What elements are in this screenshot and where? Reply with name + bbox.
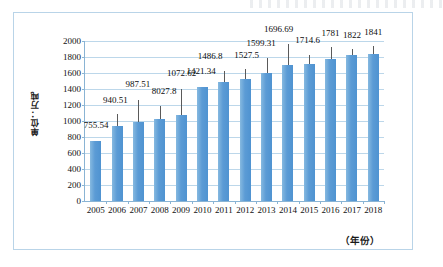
bar [176, 115, 187, 201]
y-tick-mark [82, 137, 85, 138]
bar-value-label: 1822 [343, 31, 361, 40]
bar-value-label: 1696.69 [264, 25, 293, 34]
bar [133, 122, 144, 201]
x-tick-mark [106, 201, 107, 204]
x-tick-label: 2017 [343, 205, 361, 215]
y-tick-mark [82, 73, 85, 74]
x-tick-mark [128, 201, 129, 204]
bar [197, 87, 208, 201]
x-tick-label: 2011 [215, 205, 233, 215]
x-tick-label: 2006 [108, 205, 126, 215]
x-tick-label: 2013 [258, 205, 276, 215]
plot-area: 2000180016001400120010008006004002000 20… [84, 41, 384, 202]
label-leader-line [160, 106, 161, 119]
y-tick-label: 1800 [63, 53, 81, 62]
y-tick-mark [82, 201, 85, 202]
bar-value-label: 8027.8 [152, 87, 177, 96]
y-tick-mark [82, 185, 85, 186]
y-tick-label: 400 [68, 165, 82, 174]
gridline [85, 137, 384, 138]
y-tick-label: 0 [77, 197, 82, 206]
bar-value-label: 755.54 [84, 121, 109, 130]
x-axis-title: （年份） [340, 233, 380, 247]
y-tick-label: 1400 [63, 85, 81, 94]
x-tick-mark [363, 201, 364, 204]
bar [346, 55, 357, 201]
gridline [85, 41, 384, 42]
y-tick-label: 200 [68, 181, 82, 190]
label-leader-line [267, 58, 268, 73]
x-tick-mark [320, 201, 321, 204]
y-tick-label: 1000 [63, 117, 81, 126]
label-leader-line [288, 44, 289, 65]
label-leader-line [331, 47, 332, 59]
bar-value-label: 1527.5 [234, 51, 259, 60]
x-tick-mark [235, 201, 236, 204]
x-tick-mark [170, 201, 171, 204]
x-tick-mark [149, 201, 150, 204]
y-tick-mark [82, 169, 85, 170]
y-tick-label: 600 [68, 149, 82, 158]
label-leader-line [245, 69, 246, 79]
bar-value-label: 1486.8 [198, 52, 223, 61]
scan-noise-artifact [250, 0, 443, 8]
y-tick-mark [82, 105, 85, 106]
gridline [85, 73, 384, 74]
x-tick-label: 2005 [87, 205, 105, 215]
y-tick-label: 2000 [63, 37, 81, 46]
bar [112, 126, 123, 201]
x-tick-mark [341, 201, 342, 204]
bar [304, 64, 315, 201]
bar [218, 82, 229, 201]
gridline [85, 169, 384, 170]
bar-value-label: 1841 [364, 28, 382, 37]
gridline [85, 153, 384, 154]
label-leader-line [352, 49, 353, 55]
bar [261, 73, 272, 201]
y-tick-mark [82, 57, 85, 58]
label-leader-line [138, 100, 139, 122]
y-tick-mark [82, 89, 85, 90]
x-tick-label: 2018 [364, 205, 382, 215]
gridline [85, 185, 384, 186]
x-tick-label: 2008 [151, 205, 169, 215]
x-tick-label: 2009 [172, 205, 190, 215]
x-tick-mark [384, 201, 385, 204]
gridline [85, 105, 384, 106]
y-axis-title: 单位：万吨 [32, 91, 48, 136]
x-tick-label: 2010 [193, 205, 211, 215]
x-tick-mark [192, 201, 193, 204]
gridline [85, 89, 384, 90]
chart-figure-frame: 单位：万吨 （年份） 20001800160014001200100080060… [13, 12, 413, 250]
y-tick-label: 800 [68, 133, 82, 142]
bar-value-label: 1421.34 [186, 67, 215, 76]
y-tick-mark [82, 41, 85, 42]
x-tick-label: 2014 [279, 205, 297, 215]
bar [368, 54, 379, 201]
y-tick-label: 1600 [63, 69, 81, 78]
x-tick-label: 2015 [300, 205, 318, 215]
bar-value-label: 1599.31 [247, 39, 276, 48]
bar [325, 59, 336, 201]
x-tick-mark [277, 201, 278, 204]
bar-value-label: 987.51 [125, 80, 150, 89]
x-tick-label: 2012 [236, 205, 254, 215]
label-leader-line [309, 55, 310, 64]
bar-value-label: 1781 [322, 29, 340, 38]
bar [240, 79, 251, 201]
x-tick-mark [213, 201, 214, 204]
x-tick-label: 2007 [129, 205, 147, 215]
x-tick-mark [256, 201, 257, 204]
bar [154, 119, 165, 201]
label-leader-line [373, 46, 374, 54]
gridline [85, 121, 384, 122]
x-tick-mark [299, 201, 300, 204]
y-tick-mark [82, 153, 85, 154]
x-tick-label: 2016 [322, 205, 340, 215]
bar-value-label: 940.51 [103, 96, 128, 105]
label-leader-line [117, 114, 118, 126]
bar [282, 65, 293, 201]
label-leader-line [224, 71, 225, 82]
y-tick-label: 1200 [63, 101, 81, 110]
bar-value-label: 1714.6 [295, 36, 320, 45]
